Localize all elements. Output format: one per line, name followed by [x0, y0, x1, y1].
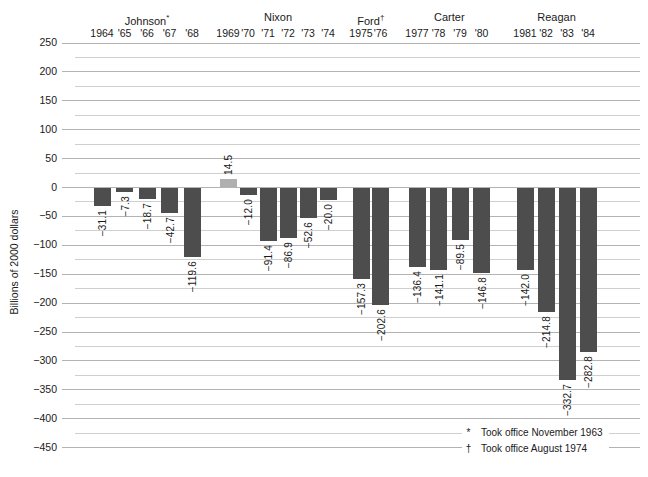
bar-value-label: −31.1: [97, 210, 108, 236]
president-label-reagan: Reagan: [537, 11, 576, 24]
footnote-mark-dagger: †: [464, 441, 473, 457]
y-tick-label: −250: [18, 325, 57, 338]
year-tick-label: '71: [261, 27, 275, 39]
minor-gridline: [75, 404, 640, 405]
bar-value-label: 14.5: [223, 154, 234, 174]
deficit-bar-1977: [409, 188, 426, 267]
minor-gridline: [75, 86, 640, 87]
bar-value-label: −282.8: [583, 356, 594, 388]
year-tick-label: '83: [560, 27, 574, 39]
deficit-bar-1981: [517, 188, 534, 270]
y-tick-label: 0: [18, 181, 57, 194]
president-label-johnson: Johnson*: [125, 11, 170, 28]
minor-gridline: [75, 144, 640, 145]
y-tick-label: −450: [18, 441, 57, 454]
deficit-bar-chart: Billions of 2000 dollars 250200150100500…: [0, 0, 648, 477]
y-tick-label: −200: [18, 296, 57, 309]
deficit-bar-83: [559, 188, 576, 380]
major-gridline: [62, 129, 640, 130]
deficit-bar-66: [139, 188, 156, 199]
bar-value-label: −89.5: [455, 244, 466, 270]
y-tick-label: −400: [18, 412, 57, 425]
bar-value-label: −142.0: [520, 274, 531, 306]
deficit-bar-82: [538, 188, 555, 312]
major-gridline: [62, 100, 640, 101]
deficit-bar-65: [116, 188, 133, 192]
minor-gridline: [75, 375, 640, 376]
footnote-text: Took office November 1963: [481, 425, 603, 441]
year-tick-label: 1981: [513, 27, 536, 39]
y-tick-label: −150: [18, 267, 57, 280]
year-tick-label: '78: [432, 27, 446, 39]
footnote-marker: †: [380, 13, 384, 22]
bar-value-label: −91.4: [263, 245, 274, 271]
major-gridline: [62, 71, 640, 72]
year-tick-label: '84: [581, 27, 595, 39]
footnote-mark-asterisk: *: [464, 425, 473, 441]
bar-value-label: −202.6: [375, 309, 386, 341]
major-gridline: [62, 418, 640, 419]
bar-value-label: −12.0: [243, 199, 254, 225]
deficit-bar-1969: [220, 179, 237, 187]
y-tick-label: 100: [18, 123, 57, 136]
y-tick-label: 200: [18, 65, 57, 78]
deficit-bar-78: [430, 188, 447, 270]
minor-gridline: [75, 317, 640, 318]
deficit-bar-1964: [94, 188, 111, 206]
bar-value-label: −86.9: [283, 242, 294, 268]
y-tick-label: −100: [18, 238, 57, 251]
year-tick-label: '65: [118, 27, 132, 39]
president-label-nixon: Nixon: [264, 11, 292, 24]
president-label-carter: Carter: [434, 11, 465, 24]
major-gridline: [62, 158, 640, 159]
major-gridline: [62, 332, 640, 333]
footnotes: * Took office November 1963 † Took offic…: [462, 424, 609, 459]
deficit-bar-1975: [353, 188, 370, 279]
deficit-bar-71: [260, 188, 277, 241]
bar-value-label: −42.7: [164, 217, 175, 243]
footnote-johnson: * Took office November 1963: [464, 425, 603, 441]
deficit-bar-68: [184, 188, 201, 257]
year-tick-label: '73: [301, 27, 315, 39]
bar-value-label: −214.8: [541, 316, 552, 348]
footnote-text: Took office August 1974: [481, 441, 587, 457]
bar-value-label: −146.8: [476, 277, 487, 309]
minor-gridline: [75, 346, 640, 347]
deficit-bar-73: [300, 188, 317, 218]
year-tick-label: '66: [140, 27, 154, 39]
bar-value-label: −18.7: [142, 203, 153, 229]
bar-value-label: −7.3: [119, 196, 130, 217]
year-tick-label: 1964: [90, 27, 113, 39]
year-tick-label: '80: [475, 27, 489, 39]
year-tick-label: '76: [374, 27, 388, 39]
bar-value-label: −157.3: [356, 283, 367, 315]
year-tick-label: '79: [453, 27, 467, 39]
year-tick-label: 1975: [349, 27, 372, 39]
deficit-bar-84: [580, 188, 597, 352]
y-tick-label: 250: [18, 36, 57, 49]
year-tick-label: 1969: [216, 27, 239, 39]
deficit-bar-80: [473, 188, 490, 273]
deficit-bar-72: [280, 188, 297, 238]
bar-value-label: −136.4: [412, 271, 423, 303]
year-tick-label: '68: [185, 27, 199, 39]
y-tick-label: −50: [18, 209, 57, 222]
footnote-marker: *: [166, 13, 169, 22]
minor-gridline: [75, 57, 640, 58]
deficit-bar-76: [372, 188, 389, 305]
bar-value-label: −20.0: [323, 204, 334, 230]
year-tick-label: '74: [321, 27, 335, 39]
deficit-bar-74: [320, 188, 337, 200]
bar-value-label: −141.1: [433, 274, 444, 306]
y-tick-label: 50: [18, 152, 57, 165]
deficit-bar-79: [452, 188, 469, 240]
major-gridline: [62, 43, 640, 44]
year-tick-label: 1977: [405, 27, 428, 39]
minor-gridline: [75, 115, 640, 116]
year-tick-label: '70: [241, 27, 255, 39]
president-label-ford: Ford†: [357, 11, 384, 28]
bar-value-label: −332.7: [562, 384, 573, 416]
year-tick-label: '67: [163, 27, 177, 39]
deficit-bar-70: [240, 188, 257, 195]
year-tick-label: '82: [539, 27, 553, 39]
